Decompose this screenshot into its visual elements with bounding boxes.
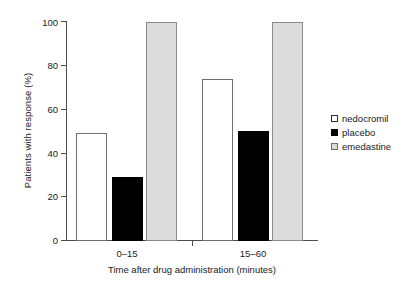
y-tick-label-100: 100: [32, 17, 58, 28]
y-tick-label-60: 60: [32, 104, 58, 115]
legend-item-emedastine: emedastine: [331, 140, 391, 153]
y-tick-label-80: 80: [32, 60, 58, 71]
bar-placebo-15-60: [238, 131, 269, 241]
bar-emedastine-15-60: [272, 22, 303, 241]
bar-chart-figure: Patients with response (%) 100 80 60 40 …: [0, 0, 413, 286]
y-tick-label-20: 20: [32, 191, 58, 202]
y-tick-label-40: 40: [32, 148, 58, 159]
y-axis-line: [66, 21, 67, 241]
x-tick-label-15-60: 15–60: [213, 248, 293, 259]
chart-legend: nedocromil placebo emedastine: [331, 112, 391, 154]
legend-label-placebo: placebo: [342, 127, 375, 138]
legend-item-nedocromil: nedocromil: [331, 112, 391, 125]
bar-placebo-0-15: [112, 177, 143, 241]
bar-emedastine-0-15: [146, 22, 177, 241]
bar-nedocromil-15-60: [202, 79, 233, 241]
x-tick-label-0-15: 0–15: [87, 248, 167, 259]
x-tick-mark-separator: [192, 241, 193, 246]
legend-item-placebo: placebo: [331, 126, 391, 139]
legend-swatch-emedastine-icon: [331, 143, 338, 150]
legend-label-emedastine: emedastine: [342, 141, 391, 152]
legend-label-nedocromil: nedocromil: [342, 113, 388, 124]
legend-swatch-placebo-icon: [331, 129, 338, 136]
bar-nedocromil-0-15: [76, 133, 107, 241]
y-axis-title: Patients with response (%): [22, 41, 33, 221]
x-axis-title: Time after drug administration (minutes): [66, 264, 318, 275]
y-tick-label-0: 0: [32, 235, 58, 246]
legend-swatch-nedocromil-icon: [331, 115, 338, 122]
